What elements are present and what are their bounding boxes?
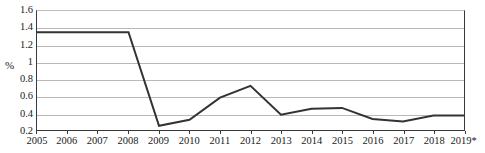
x-axis-tick-label: 2014 [301,135,322,147]
x-axis-tick-mark [373,131,374,134]
x-axis-tick-mark [36,131,37,134]
line-chart: 1.61.41.210.80.60.40.2 % 200520062007200… [0,0,485,153]
x-axis-tick-label: 2019* [451,135,477,147]
y-axis-tick-labels: 1.61.41.210.80.60.40.2 [0,0,33,153]
x-axis-tick-label: 2017 [393,135,414,147]
x-axis-tick-mark [97,131,98,134]
y-axis-tick-label: 0.8 [0,74,33,84]
x-axis-tick-label: 2005 [27,135,48,147]
x-axis-tick-label: 2008 [117,135,138,147]
x-axis-tick-mark [342,131,343,134]
x-axis-tick-mark [189,131,190,134]
x-axis-tick-mark [220,131,221,134]
x-axis-tick-label: 2007 [87,135,108,147]
y-axis-tick-label: 1.4 [0,22,33,32]
x-axis-tick-mark [312,131,313,134]
x-axis-tick-mark [128,131,129,134]
x-axis-tick-label: 2015 [332,135,353,147]
x-axis-tick-label: 2006 [56,135,77,147]
x-axis-tick-label: 2013 [271,135,292,147]
x-axis-tick-mark [281,131,282,134]
x-axis-tick-mark [465,131,466,134]
x-axis-tick-label: 2010 [179,135,200,147]
x-axis-tick-label: 2016 [363,135,384,147]
y-axis-tick-label: 1.2 [0,40,33,50]
x-axis-tick-mark [434,131,435,134]
x-axis-tick-mark [159,131,160,134]
plot-area [36,10,465,131]
x-axis-tick-labels: 2005200620072008200920102011201220132014… [36,131,465,153]
x-axis-tick-label: 2012 [240,135,261,147]
y-axis-tick-label: 0.6 [0,91,33,101]
data-series-line [37,11,464,130]
x-axis-tick-label: 2009 [148,135,169,147]
x-axis-tick-mark [404,131,405,134]
x-axis-tick-mark [251,131,252,134]
x-axis-tick-label: 2018 [424,135,445,147]
y-axis-tick-label: 0.4 [0,109,33,119]
series-polyline [37,32,464,125]
y-axis-tick-label: 1.6 [0,5,33,15]
y-axis-title: % [5,60,14,71]
x-axis-tick-label: 2011 [210,135,231,147]
x-axis-tick-mark [67,131,68,134]
